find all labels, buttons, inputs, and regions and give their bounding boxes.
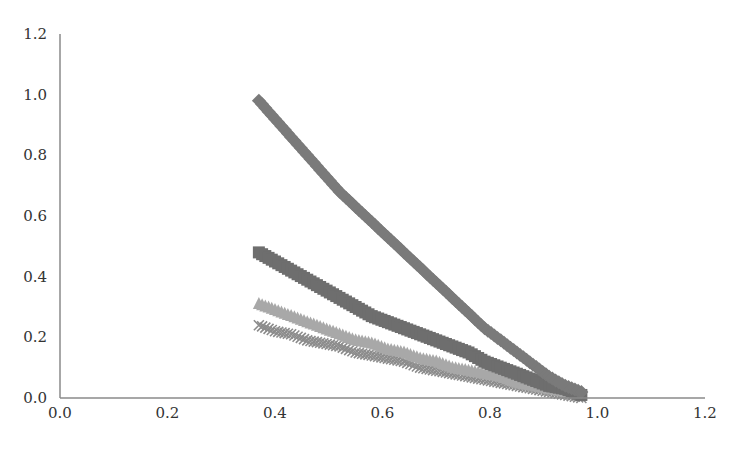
x-tick-label: 0.0 [48, 404, 72, 422]
y-tick-label: 0.0 [23, 389, 47, 407]
x-tick-label: 1.2 [693, 404, 717, 422]
y-tick-label: 0.2 [23, 328, 47, 346]
y-tick-labels: 0.0 0.2 0.4 0.6 0.8 1.0 1.2 [23, 25, 47, 407]
x-tick-label: 0.2 [156, 404, 180, 422]
x-tick-label: 1.0 [586, 404, 610, 422]
x-tick-label: 0.6 [371, 404, 395, 422]
x-tick-label: 0.8 [478, 404, 502, 422]
plot-area [252, 94, 589, 403]
y-tick-label: 0.8 [23, 146, 47, 164]
y-tick-label: 1.0 [23, 86, 47, 104]
y-tick-label: 1.2 [23, 25, 47, 43]
y-tick-label: 0.4 [23, 268, 47, 286]
scatter-chart: 0.0 0.2 0.4 0.6 0.8 1.0 1.2 0.0 0.2 0.4 … [0, 0, 740, 449]
x-tick-labels: 0.0 0.2 0.4 0.6 0.8 1.0 1.2 [48, 404, 717, 422]
y-tick-label: 0.6 [23, 207, 47, 225]
x-tick-label: 0.4 [263, 404, 287, 422]
